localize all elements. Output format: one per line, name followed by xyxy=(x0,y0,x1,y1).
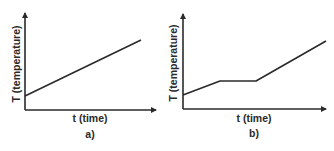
y-axis-label-a: T (temperature) xyxy=(10,25,22,102)
panel-caption-b: b) xyxy=(249,127,259,139)
panel-b: T (temperature) t (time) b) xyxy=(167,14,326,139)
x-axis-label-b: t (time) xyxy=(237,112,272,124)
y-axis-label-b: T (temperature) xyxy=(167,24,179,101)
x-axis-label-a: t (time) xyxy=(73,112,108,124)
temperature-curve-b xyxy=(183,41,326,95)
temperature-time-diagrams: T (temperature) t (time) a) T (temperatu… xyxy=(0,0,334,151)
panel-caption-a: a) xyxy=(85,128,94,140)
panel-a: T (temperature) t (time) a) xyxy=(10,13,156,140)
temperature-curve-a xyxy=(25,40,141,96)
